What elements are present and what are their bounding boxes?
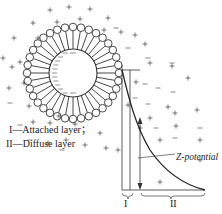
layer-2-label: II — [170, 198, 177, 209]
z-potential-text: Z-potential — [176, 152, 218, 162]
layer-1-label: I — [124, 198, 127, 209]
diagram-root: I—Attached layer； II—Diffuse layer Z-pot… — [0, 0, 222, 214]
legend-text-1: —Attached layer； — [12, 124, 91, 135]
legend-symbol-2: II — [6, 138, 13, 149]
legend-diffuse-layer: II—Diffuse layer — [6, 138, 75, 149]
z-potential-label: Z-potential — [176, 152, 218, 163]
legend-text-2: —Diffuse layer — [13, 138, 75, 149]
legend-attached-layer: I—Attached layer； — [9, 124, 91, 135]
micelle-double-layer-drawing — [0, 0, 222, 214]
